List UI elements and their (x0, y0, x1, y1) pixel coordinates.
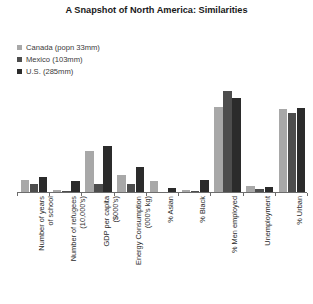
bar (288, 113, 297, 192)
legend-item-label: U.S. (285mm) (26, 67, 73, 76)
bar (53, 190, 62, 192)
bar (94, 184, 103, 192)
x-axis-label: % Black (199, 196, 208, 296)
chart-legend: Canada (popn 33mm)Mexico (103mm)U.S. (28… (17, 42, 167, 78)
bar (182, 190, 191, 192)
bar (214, 107, 223, 192)
legend-swatch-icon (17, 69, 22, 74)
chart-container: A Snapshot of North America: Similaritie… (0, 0, 313, 304)
bar-group (150, 88, 177, 192)
x-axis-line (17, 192, 307, 193)
legend-item: Mexico (103mm) (17, 54, 167, 65)
x-axis-label: Number of years of school (38, 196, 55, 296)
bar-group (182, 88, 209, 192)
bar (200, 180, 209, 192)
bar (71, 181, 80, 192)
bar-group (21, 88, 48, 192)
x-axis-label: GDP per capita ($000's) (103, 196, 120, 296)
bar (30, 184, 39, 192)
bar-group (53, 88, 80, 192)
bar (62, 191, 71, 192)
bar (168, 188, 177, 192)
x-axis-label: Number of refugees (10,000's) (70, 196, 87, 296)
x-axis-label: Energy Consumption (000's kg) (135, 196, 152, 296)
bar (39, 177, 48, 192)
legend-item-label: Canada (popn 33mm) (26, 43, 100, 52)
legend-swatch-icon (17, 57, 22, 62)
bar (103, 146, 112, 192)
bar (117, 175, 126, 192)
bar (85, 151, 94, 192)
bar-group (117, 88, 144, 192)
x-axis-label: % Men employed (231, 196, 240, 296)
bar (127, 184, 136, 192)
bar-group (279, 88, 306, 192)
bar (150, 181, 159, 192)
x-axis-labels: Number of years of schoolNumber of refug… (17, 196, 307, 300)
legend-item: U.S. (285mm) (17, 66, 167, 77)
bar (232, 98, 241, 192)
x-axis-label: % Urban (296, 196, 305, 296)
bar (297, 108, 306, 192)
bar-group (85, 88, 112, 192)
bar (136, 167, 145, 192)
bar (191, 191, 200, 192)
legend-item: Canada (popn 33mm) (17, 42, 167, 53)
legend-swatch-icon (17, 45, 22, 50)
bar (265, 187, 274, 192)
bar (279, 109, 288, 192)
chart-title: A Snapshot of North America: Similaritie… (0, 4, 313, 16)
x-axis-label: Unemployment (264, 196, 273, 296)
x-axis-label: % Asian (167, 196, 176, 296)
legend-item-label: Mexico (103mm) (26, 55, 83, 64)
bar (223, 91, 232, 192)
bar (246, 186, 255, 192)
x-axis-tick (307, 193, 308, 196)
bar-group (246, 88, 273, 192)
plot-area (17, 88, 307, 193)
bar (21, 180, 30, 192)
bar-group (214, 88, 241, 192)
bar (255, 189, 264, 192)
